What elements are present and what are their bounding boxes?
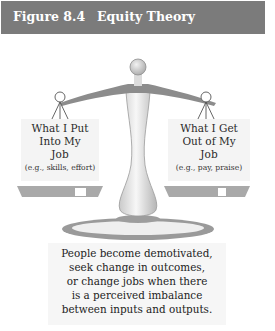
inputs-examples: (e.g., skills, effort): [21, 163, 99, 173]
right-hanger: [197, 92, 215, 121]
scale-neck: [134, 74, 142, 86]
caption-line: is a perceived imbalance: [48, 288, 226, 302]
inputs-title-line: Job: [21, 148, 99, 161]
caption-box: People become demotivated, seek change i…: [48, 243, 226, 325]
left-hanger: [51, 92, 69, 121]
inputs-panel: What I Put Into My Job (e.g., skills, ef…: [21, 119, 99, 181]
caption-line: or change jobs when there: [48, 274, 226, 288]
right-pan-tray: [164, 186, 250, 197]
caption-line: between inputs and outputs.: [48, 302, 226, 316]
inputs-title-line: What I Put: [21, 122, 99, 135]
outcomes-title-line: What I Get: [168, 122, 250, 135]
inputs-title-line: Into My: [21, 135, 99, 148]
left-pan-tray: [17, 186, 103, 197]
outcomes-title-line: Job: [168, 148, 250, 161]
caption-line: People become demotivated,: [48, 246, 226, 260]
outcomes-examples: (e.g., pay, praise): [168, 163, 250, 173]
outcomes-title-line: Out of My: [168, 135, 250, 148]
outcomes-title: What I Get Out of My Job: [168, 122, 250, 161]
caption-line: seek change in outcomes,: [48, 260, 226, 274]
inputs-title: What I Put Into My Job: [21, 122, 99, 161]
scale-knob: [130, 59, 146, 75]
scale-stem: [119, 92, 157, 216]
scale-base-top: [72, 221, 204, 235]
outcomes-panel: What I Get Out of My Job (e.g., pay, pra…: [168, 119, 250, 181]
